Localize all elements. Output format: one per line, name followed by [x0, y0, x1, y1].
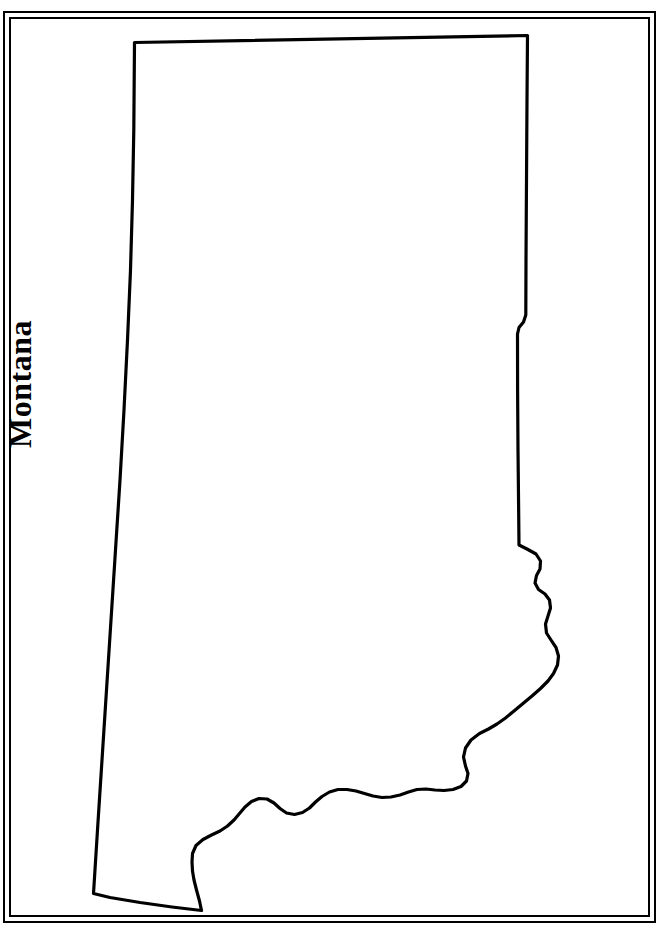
montana-boundary-path	[94, 36, 559, 911]
state-outline-map	[0, 0, 663, 936]
map-title: Montana	[0, 288, 40, 448]
map-page: Montana	[0, 0, 663, 936]
